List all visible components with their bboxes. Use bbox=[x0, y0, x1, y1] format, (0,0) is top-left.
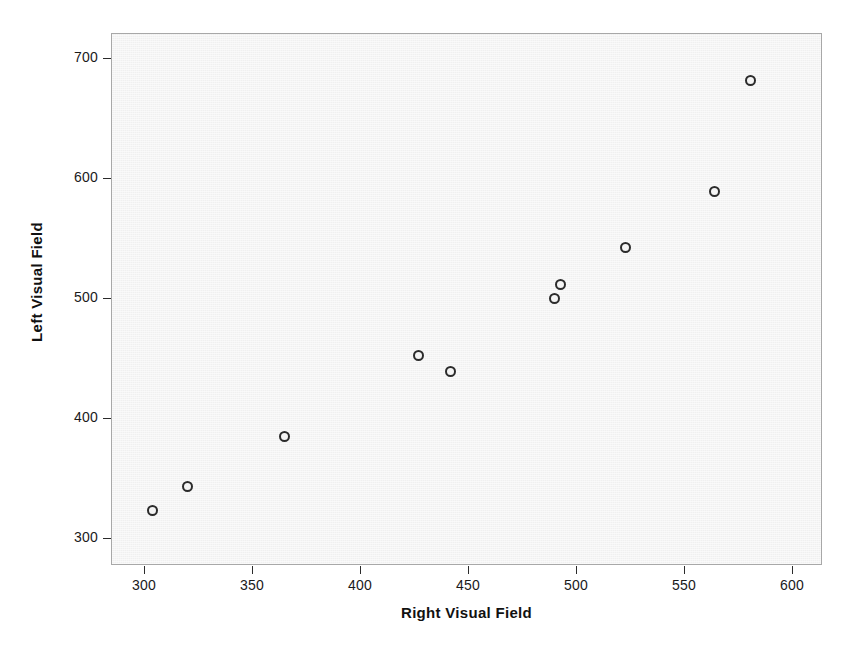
y-axis-tick bbox=[103, 538, 111, 539]
x-axis-tick bbox=[144, 566, 145, 574]
x-axis-tick-label: 400 bbox=[330, 577, 390, 593]
x-axis-tick bbox=[684, 566, 685, 574]
x-axis-tick-label: 450 bbox=[438, 577, 498, 593]
y-axis-title: Left Visual Field bbox=[20, 16, 54, 548]
x-axis-tick-label: 300 bbox=[114, 577, 174, 593]
y-axis-tick bbox=[103, 418, 111, 419]
x-axis-title: Right Visual Field bbox=[111, 604, 822, 621]
x-axis-tick-label: 600 bbox=[762, 577, 822, 593]
x-axis-tick bbox=[360, 566, 361, 574]
y-axis-tick bbox=[103, 298, 111, 299]
x-axis-tick bbox=[468, 566, 469, 574]
x-axis-tick bbox=[576, 566, 577, 574]
x-axis-tick bbox=[252, 566, 253, 574]
x-axis-tick-label: 350 bbox=[222, 577, 282, 593]
y-axis-tick bbox=[103, 178, 111, 179]
x-axis-tick-label: 550 bbox=[654, 577, 714, 593]
y-axis-tick bbox=[103, 58, 111, 59]
plot-area bbox=[111, 33, 822, 565]
x-axis-tick-label: 500 bbox=[546, 577, 606, 593]
scatter-plot: 300350400450500550600300400500600700 Rig… bbox=[0, 0, 860, 653]
x-axis-tick bbox=[792, 566, 793, 574]
